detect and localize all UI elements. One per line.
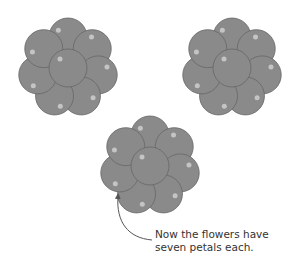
flower-center — [49, 49, 87, 87]
flower-left — [19, 18, 117, 115]
flower-bottom — [101, 116, 199, 213]
flower-center — [131, 147, 169, 185]
flower-center — [213, 49, 251, 87]
caption-line-2: seven petals each. — [155, 241, 269, 254]
caption: Now the flowers have seven petals each. — [155, 228, 269, 254]
caption-line-1: Now the flowers have — [155, 228, 269, 241]
flower-right — [183, 18, 281, 115]
